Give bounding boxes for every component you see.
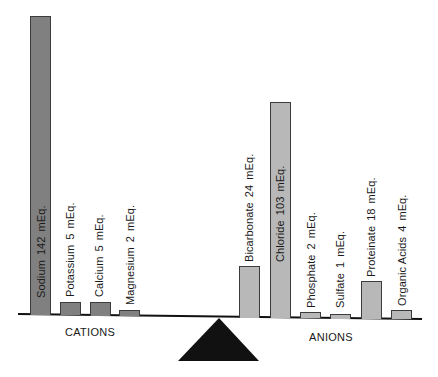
- bar-label-bicarbonate: Bicarbonate24mEq.: [243, 154, 255, 262]
- anions-label: ANIONS: [309, 331, 353, 343]
- bar-label-name: Sodium: [35, 260, 47, 298]
- bar-label-value: 5: [93, 245, 105, 251]
- bar-organic-acids: [391, 310, 412, 319]
- bar-label-unit: mEq.: [365, 177, 377, 203]
- bar-label-name: Potassium: [64, 245, 76, 297]
- bar-sulfate: [330, 314, 351, 319]
- bar-label-unit: mEq.: [396, 195, 408, 221]
- cations-label: CATIONS: [65, 326, 115, 338]
- bar-label-proteinate: Proteinate18mEq.: [365, 177, 377, 277]
- bar-label-value: 24: [243, 185, 255, 197]
- bar-label-unit: mEq.: [305, 212, 317, 238]
- bar-calcium: [90, 302, 111, 316]
- bar-label-name: Organic Acids: [396, 237, 408, 306]
- bar-label-magnesium: Magnesium2mEq.: [124, 205, 136, 305]
- bar-label-unit: mEq.: [93, 214, 105, 240]
- bar-proteinate: [361, 281, 382, 319]
- bar-label-value: 103: [274, 197, 286, 216]
- bar-label-unit: mEq.: [334, 231, 346, 257]
- bar-label-name: Phosphate: [305, 255, 317, 309]
- bar-label-unit: mEq.: [243, 154, 255, 180]
- bar-label-organic-acids: Organic Acids4mEq.: [396, 195, 408, 306]
- bar-label-value: 1: [334, 262, 346, 268]
- bar-label-value: 2: [305, 243, 317, 249]
- bar-potassium: [60, 302, 81, 315]
- bar-label-value: 18: [365, 208, 377, 220]
- bar-label-name: Proteinate: [365, 226, 377, 277]
- bar-label-sulfate: Sulfate1mEq.: [334, 231, 346, 308]
- bar-label-name: Bicarbonate: [243, 202, 255, 262]
- bar-label-chloride: Chloride103mEq.: [274, 166, 286, 263]
- bar-label-unit: mEq.: [124, 205, 136, 231]
- bar-bicarbonate: [239, 266, 260, 318]
- bar-label-name: Sulfate: [334, 273, 346, 308]
- bar-label-unit: mEq.: [274, 166, 286, 192]
- balance-diagram: Sodium142mEq.Potassium5mEq.Calcium5mEq.M…: [0, 0, 438, 377]
- bar-label-potassium: Potassium5mEq.: [64, 202, 76, 297]
- bar-label-sodium: Sodium142mEq.: [35, 205, 47, 298]
- bar-label-name: Chloride: [274, 220, 286, 262]
- bar-label-phosphate: Phosphate2mEq.: [305, 212, 317, 308]
- bar-label-value: 2: [124, 236, 136, 242]
- bar-phosphate: [300, 312, 321, 318]
- bar-label-unit: mEq.: [64, 202, 76, 228]
- bar-label-name: Calcium: [93, 257, 105, 297]
- bar-label-value: 4: [396, 226, 408, 232]
- bar-label-value: 142: [35, 236, 47, 255]
- fulcrum-triangle-icon: [178, 318, 259, 361]
- bar-label-value: 5: [64, 234, 76, 240]
- bar-label-calcium: Calcium5mEq.: [93, 214, 105, 297]
- bar-magnesium: [119, 310, 140, 316]
- bar-label-name: Magnesium: [124, 247, 136, 305]
- bar-label-unit: mEq.: [35, 205, 47, 231]
